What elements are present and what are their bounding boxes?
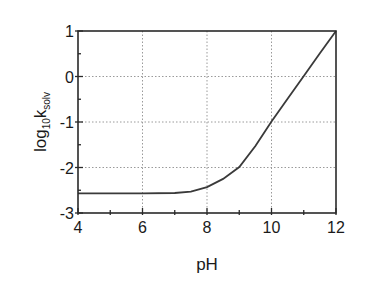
y-tick-label: -1	[60, 114, 74, 131]
x-tick-label: 8	[203, 219, 212, 236]
x-tick-label: 12	[327, 219, 345, 236]
x-tick-label: 4	[74, 219, 83, 236]
x-tick-labels: 4681012	[74, 219, 345, 236]
y-tick-label: 0	[65, 69, 74, 86]
y-tick-label: 1	[65, 23, 74, 40]
chart: 4681012 10-1-2-3 pH log10ksolv	[0, 0, 370, 283]
y-tick-labels: 10-1-2-3	[60, 23, 74, 222]
y-tick-label: -2	[60, 160, 74, 177]
grid-lines	[78, 31, 336, 213]
x-axis-title: pH	[196, 255, 218, 274]
y-tick-label: -3	[60, 205, 74, 222]
x-tick-label: 10	[263, 219, 281, 236]
y-axis-title: log10ksolv	[31, 92, 52, 152]
x-tick-label: 6	[138, 219, 147, 236]
